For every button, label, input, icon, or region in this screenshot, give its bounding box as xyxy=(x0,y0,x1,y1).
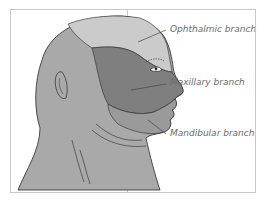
label-ophthalmic: Ophthalmic branch xyxy=(170,24,256,34)
label-mandibular: Mandibular branch xyxy=(170,128,254,138)
label-maxillary: Maxillary branch xyxy=(170,77,245,87)
